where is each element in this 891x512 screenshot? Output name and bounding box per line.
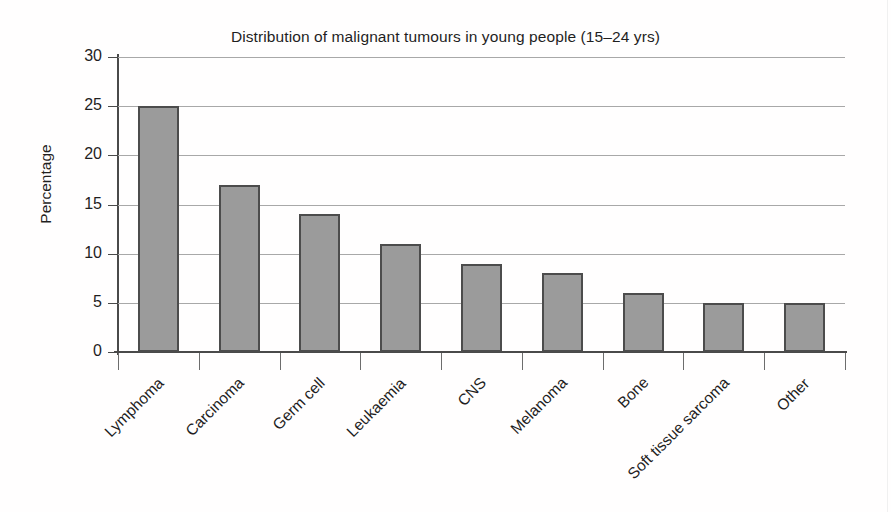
y-tick-label: 20 [62, 145, 102, 163]
x-tick [845, 353, 846, 370]
bar [784, 303, 825, 352]
y-axis-title: Percentage [37, 114, 55, 254]
y-tick [108, 57, 117, 58]
x-tick [118, 353, 119, 370]
bar [703, 303, 744, 352]
x-category-label: Bone [614, 374, 652, 412]
plot-area [118, 57, 845, 352]
bar [461, 264, 502, 353]
x-category-label: Leukaemia [343, 374, 409, 440]
y-tick [108, 106, 117, 107]
y-axis-tick-labels: 051015202530 [56, 0, 102, 512]
chart-figure: Distribution of malignant tumours in you… [0, 0, 891, 512]
x-category-label: Carcinoma [182, 374, 248, 440]
x-tick [522, 353, 523, 370]
x-tick [603, 353, 604, 370]
x-tick [199, 353, 200, 370]
y-tick [108, 303, 117, 304]
bar [138, 106, 179, 352]
gridline [118, 155, 845, 156]
y-tick-label: 25 [62, 96, 102, 114]
y-tick-label: 5 [62, 293, 102, 311]
x-tick [764, 353, 765, 370]
y-tick-label: 30 [62, 47, 102, 65]
y-tick-label: 10 [62, 244, 102, 262]
x-category-label: Melanoma [507, 374, 571, 438]
chart-title: Distribution of malignant tumours in you… [0, 28, 891, 46]
bar [542, 273, 583, 352]
x-category-label: Lymphoma [101, 374, 168, 441]
x-tick [683, 353, 684, 370]
x-category-label: Other [773, 374, 813, 414]
bar [299, 214, 340, 352]
bar [380, 244, 421, 352]
x-category-label: CNS [454, 374, 490, 410]
x-tick [360, 353, 361, 370]
x-category-label: Germ cell [269, 374, 329, 434]
bar [219, 185, 260, 352]
y-tick-label: 0 [62, 342, 102, 360]
x-tick [280, 353, 281, 370]
y-tick [108, 155, 117, 156]
y-tick [108, 205, 117, 206]
gridline [118, 57, 845, 58]
scan-artifact-line [887, 0, 888, 512]
y-tick [108, 254, 117, 255]
x-tick [441, 353, 442, 370]
y-tick-label: 15 [62, 195, 102, 213]
bar [623, 293, 664, 352]
gridline [118, 106, 845, 107]
